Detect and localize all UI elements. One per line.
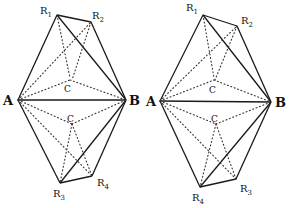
dotted-C2-R4 xyxy=(72,124,92,176)
dotted-A-C2 xyxy=(18,100,72,124)
label-C-upper: C xyxy=(209,85,216,95)
dotted-R1-C xyxy=(203,15,214,78)
edge-A-R4 xyxy=(160,101,200,187)
left-figure: A B R1 R2 R3 R4 C C xyxy=(2,5,140,202)
label-A: A xyxy=(145,94,157,109)
label-R3: R3 xyxy=(53,188,65,202)
edge-R3-B xyxy=(60,100,126,183)
geometry-diagram: A B R1 R2 R3 R4 C C A B R1 R2 R3 xyxy=(0,0,291,208)
edge-R2-B xyxy=(91,22,126,100)
edge-A-B xyxy=(160,101,271,102)
label-R2: R2 xyxy=(92,10,104,24)
dotted-R2-C xyxy=(72,22,91,80)
edge-R3-B xyxy=(236,102,271,179)
dotted-A-C xyxy=(160,80,214,101)
label-R1: R1 xyxy=(40,5,52,19)
right-figure: A B R1 R2 R3 R4 C C xyxy=(145,2,286,206)
label-A: A xyxy=(2,93,14,108)
label-C-lower: C xyxy=(67,114,74,124)
edge-A-R3 xyxy=(18,100,60,183)
dotted-A-R2 xyxy=(18,22,91,100)
dotted-A-R4 xyxy=(18,100,92,176)
label-R2: R2 xyxy=(241,15,253,29)
label-C-upper: C xyxy=(64,84,71,94)
dotted-C2-R3 xyxy=(216,124,236,179)
label-B: B xyxy=(275,95,286,110)
label-C-lower: C xyxy=(211,114,218,124)
label-B: B xyxy=(129,93,140,108)
dotted-A-R2 xyxy=(160,26,237,101)
label-R3: R3 xyxy=(240,183,252,197)
edge-A-R1 xyxy=(160,15,203,101)
dotted-C2-R3 xyxy=(60,124,72,183)
edge-R4-B xyxy=(92,100,126,176)
label-R1: R1 xyxy=(186,2,198,16)
dotted-C2-B xyxy=(72,100,126,124)
dotted-A-R3 xyxy=(160,101,236,179)
label-R4: R4 xyxy=(192,192,205,206)
label-R4: R4 xyxy=(97,177,110,191)
